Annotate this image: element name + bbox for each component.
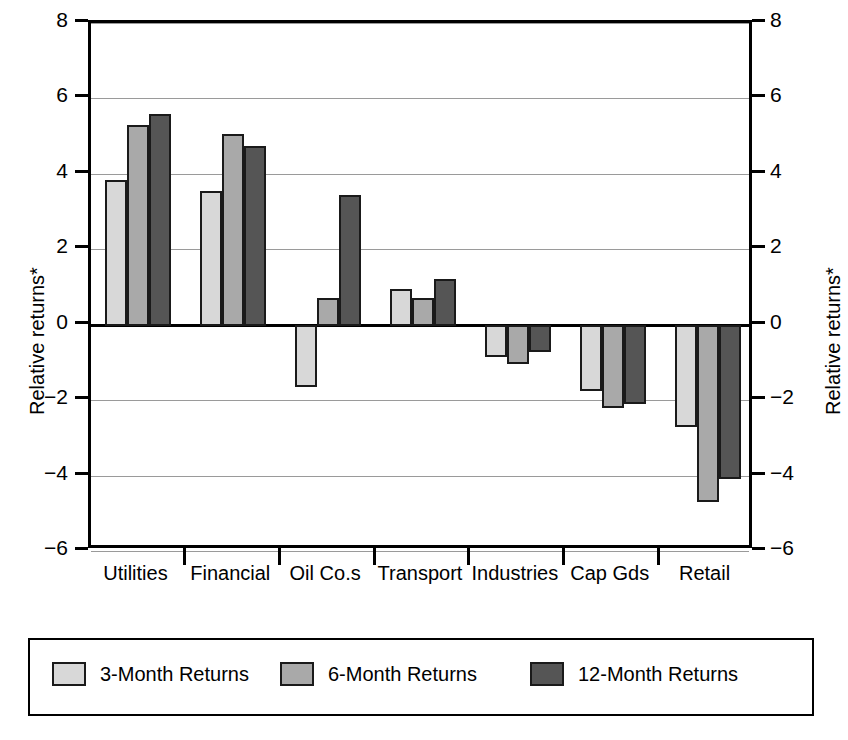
y-tick-l--2 [75,396,88,399]
bar-financial-3-month-returns [200,191,222,326]
y-tick-l--4 [75,472,88,475]
y-tick-label-r-2: 2 [770,235,830,256]
x-axis-label-industries: Industries [467,562,562,585]
y-tick-label-r-8: 8 [770,9,830,30]
bar-utilities-3-month-returns [105,180,127,326]
bar-financial-6-month-returns [222,134,244,325]
x-axis-label-cap-gds: Cap Gds [562,562,657,585]
bar-retail-12-month-returns [719,325,741,480]
legend-item-3-month-returns[interactable]: 3-Month Returns [52,662,249,686]
bar-oil-co-s-6-month-returns [317,298,339,326]
legend: 3-Month Returns6-Month Returns12-Month R… [28,638,814,716]
bar-oil-co-s-12-month-returns [339,195,361,326]
y-tick-label-r--6: −6 [770,537,830,558]
y-tick-l-0 [75,321,88,324]
y-tick-label-r-4: 4 [770,160,830,181]
bar-utilities-6-month-returns [127,125,149,326]
y-tick-r-0 [752,321,765,324]
x-axis-label-oil-co-s: Oil Co.s [278,562,373,585]
bar-retail-6-month-returns [697,325,719,502]
y-tick-l-6 [75,94,88,97]
y-tick-label-r-6: 6 [770,84,830,105]
x-axis-label-utilities: Utilities [88,562,183,585]
y-tick-r-4 [752,170,765,173]
chart-figure: Relative returns* Relative returns* 8866… [0,0,848,740]
x-axis-label-transport: Transport [373,562,468,585]
y-tick-r-6 [752,94,765,97]
bar-transport-12-month-returns [434,279,456,325]
gridline--2 [91,400,749,401]
bar-cap-gds-6-month-returns [602,325,624,408]
y-tick-label-r-0: 0 [770,311,830,332]
y-tick-l--6 [75,547,88,550]
y-tick-label-l-8: 8 [12,9,68,30]
legend-label: 6-Month Returns [328,663,477,686]
bar-transport-3-month-returns [390,289,412,326]
y-tick-l-8 [75,19,88,22]
bar-retail-3-month-returns [675,325,697,427]
x-axis-label-retail: Retail [657,562,752,585]
y-tick-r--4 [752,472,765,475]
bar-financial-12-month-returns [244,146,266,326]
gridline-8 [91,23,749,24]
gridline-2 [91,249,749,250]
y-tick-label-l--2: −2 [12,386,68,407]
bar-industries-3-month-returns [485,325,507,357]
y-tick-label-l--4: −4 [12,462,68,483]
gridline--6 [91,551,749,552]
bar-transport-6-month-returns [412,298,434,326]
legend-swatch-icon [530,662,564,686]
bar-utilities-12-month-returns [149,114,171,326]
y-tick-r-2 [752,245,765,248]
bar-cap-gds-12-month-returns [624,325,646,404]
bar-industries-6-month-returns [507,325,529,365]
gridline-6 [91,98,749,99]
y-tick-label-l-2: 2 [12,235,68,256]
y-tick-label-l-0: 0 [12,311,68,332]
legend-swatch-icon [280,662,314,686]
bar-cap-gds-3-month-returns [580,325,602,391]
y-tick-r--6 [752,547,765,550]
legend-swatch-icon [52,662,86,686]
y-tick-l-2 [75,245,88,248]
gridline--4 [91,476,749,477]
y-tick-r-8 [752,19,765,22]
y-tick-l-4 [75,170,88,173]
legend-label: 12-Month Returns [578,663,738,686]
y-tick-label-l-6: 6 [12,84,68,105]
y-tick-label-l-4: 4 [12,160,68,181]
bar-oil-co-s-3-month-returns [295,325,317,387]
y-tick-label-r--2: −2 [770,386,830,407]
y-tick-label-r--4: −4 [770,462,830,483]
bar-industries-12-month-returns [529,325,551,352]
y-tick-r--2 [752,396,765,399]
legend-item-6-month-returns[interactable]: 6-Month Returns [280,662,477,686]
legend-item-12-month-returns[interactable]: 12-Month Returns [530,662,738,686]
plot-area [88,20,752,548]
legend-label: 3-Month Returns [100,663,249,686]
x-axis-label-financial: Financial [183,562,278,585]
y-tick-label-l--6: −6 [12,537,68,558]
gridline-4 [91,174,749,175]
